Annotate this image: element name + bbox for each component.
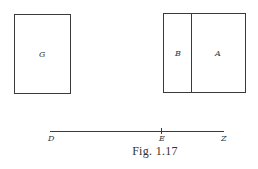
label-e: E <box>159 135 165 143</box>
divider-line-ba <box>191 13 192 93</box>
label-d: D <box>48 135 54 143</box>
figure-1-17: G B A D E Z Fig. 1.17 <box>0 0 258 169</box>
label-b: B <box>175 50 181 58</box>
label-g: G <box>39 51 45 59</box>
label-a: A <box>215 50 221 58</box>
label-z: Z <box>221 135 227 143</box>
figure-caption: Fig. 1.17 <box>0 145 258 157</box>
line-dz <box>50 131 224 132</box>
